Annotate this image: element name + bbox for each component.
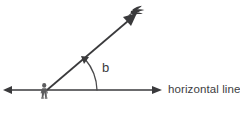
- person-icon: [41, 83, 48, 99]
- person-foot-right: [45, 97, 48, 98]
- horizontal-right-arrowhead: [152, 86, 162, 94]
- horizontal-line-group: [3, 86, 162, 94]
- horizontal-line-label: horizontal line: [168, 84, 240, 96]
- bird-body: [131, 11, 137, 15]
- bird-icon: [128, 6, 144, 16]
- person-head: [42, 83, 46, 88]
- diagram-canvas: horizontal line b: [0, 0, 240, 119]
- angle-arc: [85, 59, 97, 90]
- diagram-svg: [0, 0, 240, 119]
- line-of-sight-group: [47, 13, 137, 90]
- line-of-sight-shaft: [47, 21, 128, 90]
- person-foot-left: [41, 97, 44, 98]
- angle-label-b: b: [102, 61, 109, 74]
- angle-arc-group: [81, 56, 97, 90]
- horizontal-left-arrowhead: [3, 86, 12, 94]
